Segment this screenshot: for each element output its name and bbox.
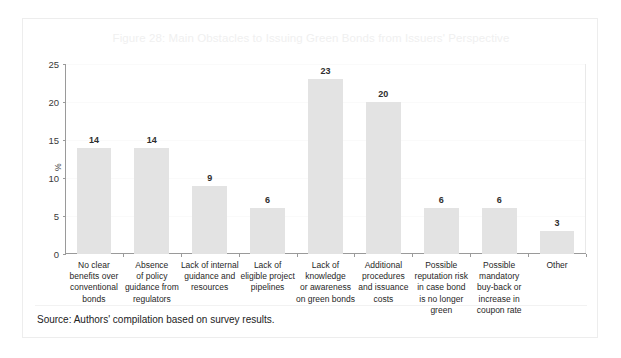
x-axis-label-line: Other xyxy=(522,260,592,271)
bar-value-label: 20 xyxy=(354,89,412,99)
x-tick-mark xyxy=(123,254,124,257)
bar[interactable] xyxy=(250,208,285,254)
x-tick-mark xyxy=(412,254,413,257)
y-axis-title: % xyxy=(53,163,63,171)
bar[interactable] xyxy=(424,208,459,254)
y-tick-label: 20 xyxy=(37,97,59,108)
bar-value-label: 3 xyxy=(528,218,586,228)
x-tick-mark xyxy=(239,254,240,257)
bar[interactable] xyxy=(482,208,517,254)
bar-value-label: 6 xyxy=(239,195,297,205)
y-tick-label: 0 xyxy=(37,249,59,260)
x-axis-label-line: increase in xyxy=(464,294,534,305)
bar-value-label: 9 xyxy=(181,173,239,183)
bar[interactable] xyxy=(77,148,112,254)
bar-value-label: 6 xyxy=(412,195,470,205)
bar-value-label: 14 xyxy=(123,135,181,145)
y-axis-line xyxy=(65,64,66,254)
source-note: Source: Authors' compilation based on su… xyxy=(37,314,275,325)
bar[interactable] xyxy=(134,148,169,254)
y-tick-label: 10 xyxy=(37,173,59,184)
y-tick-label: 5 xyxy=(37,211,59,222)
y-tick-mark xyxy=(63,254,66,255)
x-tick-mark xyxy=(297,254,298,257)
x-tick-mark xyxy=(470,254,471,257)
chart-title: Figure 28: Main Obstacles to Issuing Gre… xyxy=(23,32,599,44)
bar-value-label: 23 xyxy=(297,66,355,76)
bar[interactable] xyxy=(366,102,401,254)
x-axis-label-line: regulators xyxy=(117,294,187,305)
y-tick-label: 25 xyxy=(37,59,59,70)
x-tick-mark xyxy=(181,254,182,257)
x-axis-label-line: coupon rate xyxy=(464,305,534,316)
x-tick-mark xyxy=(586,254,587,257)
bar-value-label: 14 xyxy=(65,135,123,145)
bar[interactable] xyxy=(192,186,227,254)
x-axis-label: Other xyxy=(522,260,592,271)
bar-value-label: 6 xyxy=(470,195,528,205)
x-axis-label-line: buy-back or xyxy=(464,282,534,293)
y-gridline xyxy=(66,64,585,65)
x-tick-mark xyxy=(528,254,529,257)
x-tick-mark xyxy=(354,254,355,257)
source-divider xyxy=(35,305,587,306)
y-tick-label: 15 xyxy=(37,135,59,146)
bar[interactable] xyxy=(540,231,575,254)
x-axis-label-line: mandatory xyxy=(464,271,534,282)
figure-card: Figure 28: Main Obstacles to Issuing Gre… xyxy=(22,18,598,338)
bar[interactable] xyxy=(308,79,343,254)
